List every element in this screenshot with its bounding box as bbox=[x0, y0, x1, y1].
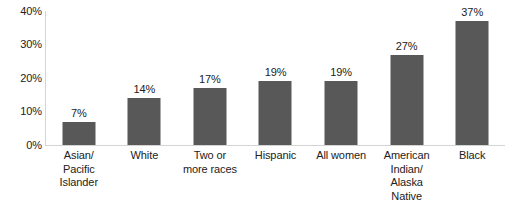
bar-value-label: 37% bbox=[461, 7, 483, 18]
bar[interactable] bbox=[259, 81, 292, 145]
bar-group: 14% bbox=[112, 11, 178, 145]
plot-area: 7%14%17%19%19%27%37% bbox=[46, 11, 505, 145]
bar-group: 19% bbox=[243, 11, 309, 145]
bar-value-label: 14% bbox=[133, 84, 155, 95]
bar[interactable] bbox=[390, 55, 423, 145]
x-category-label: White bbox=[112, 149, 178, 163]
y-tick-label: 40% bbox=[0, 6, 42, 17]
x-category-label-line: Native bbox=[374, 190, 440, 204]
x-category-label: AmericanIndian/AlaskaNative bbox=[374, 149, 440, 203]
x-category-label-line: American bbox=[374, 149, 440, 163]
x-category-label: All women bbox=[308, 149, 374, 163]
x-category-label-line: Hispanic bbox=[243, 149, 309, 163]
y-tick-label: 0% bbox=[0, 140, 42, 151]
bar-value-label: 19% bbox=[265, 67, 287, 78]
x-category-label-line: All women bbox=[308, 149, 374, 163]
y-tick-label: 10% bbox=[0, 106, 42, 117]
bar-value-label: 17% bbox=[199, 74, 221, 85]
bar-group: 37% bbox=[439, 11, 505, 145]
bar[interactable] bbox=[62, 122, 95, 145]
bar-group: 19% bbox=[308, 11, 374, 145]
x-category-label-line: Alaska bbox=[374, 176, 440, 190]
x-category-label: Asian/PacificIslander bbox=[46, 149, 112, 190]
x-category-label-line: Islander bbox=[46, 176, 112, 190]
bar[interactable] bbox=[128, 98, 161, 145]
x-axis: Asian/PacificIslanderWhiteTwo ormore rac… bbox=[46, 149, 505, 224]
bar-value-label: 19% bbox=[330, 67, 352, 78]
y-tick-label: 30% bbox=[0, 39, 42, 50]
bar-group: 17% bbox=[177, 11, 243, 145]
bar-group: 27% bbox=[374, 11, 440, 145]
x-category-label-line: Indian/ bbox=[374, 163, 440, 177]
x-category-label-line: Pacific bbox=[46, 163, 112, 177]
x-category-label: Two ormore races bbox=[177, 149, 243, 176]
bar[interactable] bbox=[456, 21, 489, 145]
bar-chart: 40%30%20%10%0% 7%14%17%19%19%27%37% Asia… bbox=[0, 0, 512, 224]
bar[interactable] bbox=[325, 81, 358, 145]
y-axis: 40%30%20%10%0% bbox=[0, 0, 42, 224]
x-category-label: Black bbox=[439, 149, 505, 163]
x-category-label: Hispanic bbox=[243, 149, 309, 163]
y-tick-label: 20% bbox=[0, 73, 42, 84]
bar-value-label: 27% bbox=[396, 41, 418, 52]
x-category-label-line: more races bbox=[177, 163, 243, 177]
x-category-label-line: Two or bbox=[177, 149, 243, 163]
x-category-label-line: Black bbox=[439, 149, 505, 163]
x-axis-line bbox=[45, 145, 505, 146]
x-category-label-line: White bbox=[112, 149, 178, 163]
bar-group: 7% bbox=[46, 11, 112, 145]
bar-value-label: 7% bbox=[71, 108, 87, 119]
x-category-label-line: Asian/ bbox=[46, 149, 112, 163]
bar[interactable] bbox=[193, 88, 226, 145]
